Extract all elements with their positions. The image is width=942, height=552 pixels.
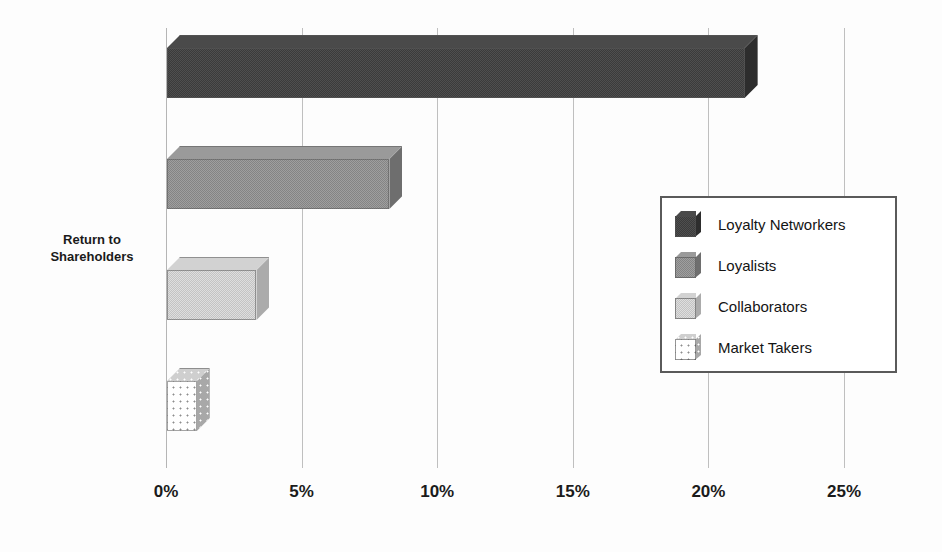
legend-item-collaborators[interactable]: Collaborators — [675, 291, 807, 321]
bar-loyalists — [167, 146, 402, 209]
legend-label: Market Takers — [718, 339, 812, 356]
bar-front-face — [167, 159, 389, 209]
legend-swatch-front — [675, 339, 696, 360]
bar-chart-figure: Return to Shareholders 0%5%10%15%20%25% … — [0, 0, 942, 552]
bar-collaborators — [167, 257, 269, 320]
bar-front-face — [167, 381, 197, 431]
legend: Loyalty NetworkersLoyalistsCollaborators… — [660, 196, 897, 373]
y-axis-label-line-2: Shareholders — [28, 248, 156, 265]
y-axis-label-line-1: Return to — [28, 231, 156, 248]
legend-label: Loyalists — [718, 257, 776, 274]
x-tick-label-20pct: 20% — [673, 482, 743, 502]
x-tick-label-10pct: 10% — [402, 482, 472, 502]
legend-swatch-icon — [675, 252, 701, 278]
legend-item-market-takers[interactable]: Market Takers — [675, 332, 812, 362]
bar-top-face — [167, 35, 758, 48]
bar-top-face — [167, 146, 402, 159]
x-tick-label-0pct: 0% — [131, 482, 201, 502]
legend-item-loyalists[interactable]: Loyalists — [675, 250, 776, 280]
legend-item-loyalty-networkers[interactable]: Loyalty Networkers — [675, 209, 846, 239]
y-axis-label: Return to Shareholders — [28, 231, 156, 265]
x-tick-label-5pct: 5% — [267, 482, 337, 502]
bar-front-face — [167, 48, 745, 98]
legend-swatch-icon — [675, 293, 701, 319]
legend-swatch-front — [675, 216, 696, 237]
bar-market-takers — [167, 368, 210, 431]
legend-swatch-icon — [675, 211, 701, 237]
legend-swatch-front — [675, 257, 696, 278]
legend-swatch-icon — [675, 334, 701, 360]
legend-label: Loyalty Networkers — [718, 216, 846, 233]
x-tick-label-15pct: 15% — [538, 482, 608, 502]
bar-front-face — [167, 270, 256, 320]
bar-top-face — [167, 257, 269, 270]
legend-label: Collaborators — [718, 298, 807, 315]
x-tick-label-25pct: 25% — [809, 482, 879, 502]
bar-loyalty-networkers — [167, 35, 758, 98]
legend-swatch-front — [675, 298, 696, 319]
